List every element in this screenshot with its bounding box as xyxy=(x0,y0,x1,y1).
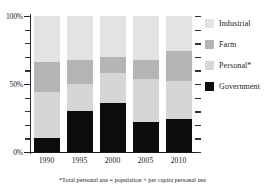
bar-1990 xyxy=(34,16,60,152)
legend-item-personal[interactable]: Personal* xyxy=(205,55,260,76)
bar-segment-government xyxy=(133,122,159,152)
y-axis-tick-right xyxy=(195,152,201,153)
bar-segment-government xyxy=(166,119,192,152)
bar-segment-personal xyxy=(100,73,126,103)
y-axis-tick xyxy=(24,16,30,17)
legend-swatch-icon xyxy=(205,61,214,70)
bar-2000 xyxy=(100,16,126,152)
bar-segment-personal xyxy=(67,84,93,111)
bar-segment-industrial xyxy=(67,16,93,60)
bar-segment-government xyxy=(100,103,126,152)
bar-segment-personal xyxy=(133,79,159,123)
y-axis-tick-right xyxy=(195,70,201,71)
y-axis-tick-right xyxy=(195,57,201,58)
bar-segment-government xyxy=(34,138,60,152)
bar-segment-industrial xyxy=(133,16,159,60)
y-axis-label: 50% xyxy=(10,80,23,89)
bar-2010 xyxy=(166,16,192,152)
plot-area: 0%50%100% xyxy=(30,16,195,152)
y-axis-tick-right xyxy=(195,16,201,17)
y-axis-label: 100% xyxy=(6,12,23,21)
y-axis-tick xyxy=(25,30,30,31)
bar-1995 xyxy=(67,16,93,152)
y-axis-tick xyxy=(24,152,30,153)
y-axis-tick xyxy=(25,43,30,44)
chart-legend: IndustrialFarmPersonal*Government xyxy=(205,13,260,97)
y-axis-label: 0% xyxy=(13,148,23,157)
bar-segment-industrial xyxy=(166,16,192,51)
x-axis-line xyxy=(30,152,196,153)
bar-segment-personal xyxy=(166,81,192,119)
y-axis-tick xyxy=(25,70,30,71)
y-axis-tick xyxy=(25,125,30,126)
bar-segment-farm xyxy=(67,60,93,84)
y-axis-tick-right xyxy=(195,111,201,112)
bar-segment-personal xyxy=(34,92,60,138)
y-axis-tick-right xyxy=(195,98,201,99)
legend-item-industrial[interactable]: Industrial xyxy=(205,13,260,34)
bar-segment-government xyxy=(67,111,93,152)
legend-item-farm[interactable]: Farm xyxy=(205,34,260,55)
y-axis-tick-right xyxy=(195,43,201,44)
legend-label: Farm xyxy=(219,40,236,49)
legend-swatch-icon xyxy=(205,40,214,49)
y-axis-tick-right xyxy=(195,30,201,31)
stacked-bar-chart: 0%50%100% 19901995200020052010 Industria… xyxy=(0,0,265,195)
legend-label: Personal* xyxy=(219,61,251,70)
bar-segment-farm xyxy=(166,51,192,81)
y-axis-tick-right xyxy=(195,125,201,126)
chart-footnote: *Total personal use = population × per c… xyxy=(0,176,265,183)
y-axis-tick xyxy=(25,138,30,139)
bar-segment-industrial xyxy=(34,16,60,62)
bar-2005 xyxy=(133,16,159,152)
legend-label: Industrial xyxy=(219,19,251,28)
y-axis-tick-right xyxy=(195,138,201,139)
x-axis-label-2010: 2010 xyxy=(159,156,199,165)
legend-item-government[interactable]: Government xyxy=(205,76,260,97)
legend-label: Government xyxy=(219,82,260,91)
bar-segment-farm xyxy=(34,62,60,92)
y-axis-tick xyxy=(24,84,30,85)
bar-segment-farm xyxy=(100,57,126,73)
y-axis-tick xyxy=(25,98,30,99)
y-axis-tick-right xyxy=(195,84,201,85)
y-axis-tick xyxy=(25,57,30,58)
bar-segment-industrial xyxy=(100,16,126,57)
legend-swatch-icon xyxy=(205,82,214,91)
legend-swatch-icon xyxy=(205,19,214,28)
bar-segment-farm xyxy=(133,60,159,79)
y-axis-tick xyxy=(25,111,30,112)
